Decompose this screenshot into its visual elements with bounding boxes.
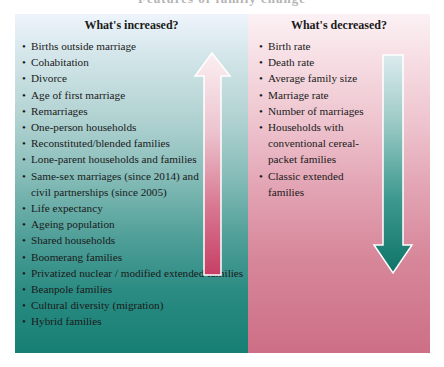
list-item: •Cultural diversity (migration) xyxy=(22,297,247,313)
up-arrow-icon xyxy=(193,51,233,278)
list-item: •Death rate xyxy=(259,54,379,70)
bullet-icon: • xyxy=(259,54,263,70)
decreased-list: •Birth rate •Death rate •Average family … xyxy=(259,38,379,200)
list-item-text: Classic extended families xyxy=(268,170,344,198)
list-item-text: One-person households xyxy=(31,121,136,133)
list-item: •Average family size xyxy=(259,70,379,86)
increased-heading: What's increased? xyxy=(15,18,248,33)
bullet-icon: • xyxy=(259,70,263,86)
list-item-text: Birth rate xyxy=(268,40,311,52)
bullet-icon: • xyxy=(22,87,26,103)
list-item-text: Marriage rate xyxy=(268,89,329,101)
list-item: •Number of marriages xyxy=(259,103,379,119)
bullet-icon: • xyxy=(22,216,26,232)
list-item: •Hybrid families xyxy=(22,313,247,329)
bullet-icon: • xyxy=(22,151,26,167)
list-item: •Same-sex marriages (since 2014) and civ… xyxy=(22,168,211,200)
bullet-icon: • xyxy=(22,103,26,119)
list-item-text: Life expectancy xyxy=(31,202,103,214)
bullet-icon: • xyxy=(22,119,26,135)
bullet-icon: • xyxy=(22,70,26,86)
bullet-icon: • xyxy=(22,249,26,265)
list-item: •Lone-parent households and families xyxy=(22,151,206,167)
list-item-text: Households with conventional cereal-pack… xyxy=(268,121,359,165)
bullet-icon: • xyxy=(22,297,26,313)
list-item-text: Births outside marriage xyxy=(31,40,136,52)
down-arrow-icon xyxy=(372,53,414,276)
bullet-icon: • xyxy=(259,168,263,184)
list-item-text: Age of first marriage xyxy=(31,89,125,101)
bullet-icon: • xyxy=(259,38,263,54)
bullet-icon: • xyxy=(22,135,26,151)
bullet-icon: • xyxy=(22,281,26,297)
bullet-icon: • xyxy=(22,38,26,54)
list-item-text: Ageing population xyxy=(31,218,115,230)
list-item-text: Death rate xyxy=(268,56,314,68)
bullet-icon: • xyxy=(259,119,263,135)
list-item: •Households with conventional cereal-pac… xyxy=(259,119,379,168)
list-item-text: Cultural diversity (migration) xyxy=(31,299,163,311)
list-item-text: Shared households xyxy=(31,234,115,246)
list-item: •Classic extended families xyxy=(259,168,379,200)
page-title: Features of family change xyxy=(0,0,444,7)
bullet-icon: • xyxy=(22,265,26,281)
list-item-text: Average family size xyxy=(268,72,357,84)
list-item-text: Beanpole families xyxy=(31,283,112,295)
list-item-text: Number of marriages xyxy=(268,105,364,117)
list-item-text: Reconstituted/blended families xyxy=(31,137,170,149)
list-item: •Beanpole families xyxy=(22,281,247,297)
bullet-icon: • xyxy=(259,87,263,103)
list-item: •Birth rate xyxy=(259,38,379,54)
list-item-text: Cohabitation xyxy=(31,56,89,68)
list-item-text: Same-sex marriages (since 2014) and civi… xyxy=(31,170,199,198)
list-item-text: Hybrid families xyxy=(31,315,102,327)
bullet-icon: • xyxy=(22,232,26,248)
list-item-text: Divorce xyxy=(31,72,67,84)
list-item-text: Boomerang families xyxy=(31,251,122,263)
decreased-heading: What's decreased? xyxy=(248,18,430,33)
bullet-icon: • xyxy=(22,200,26,216)
list-item-text: Lone-parent households and families xyxy=(31,153,197,165)
list-item: •Marriage rate xyxy=(259,87,379,103)
bullet-icon: • xyxy=(22,168,26,184)
list-item-text: Remarriages xyxy=(31,105,88,117)
bullet-icon: • xyxy=(259,103,263,119)
bullet-icon: • xyxy=(22,54,26,70)
bullet-icon: • xyxy=(22,313,26,329)
